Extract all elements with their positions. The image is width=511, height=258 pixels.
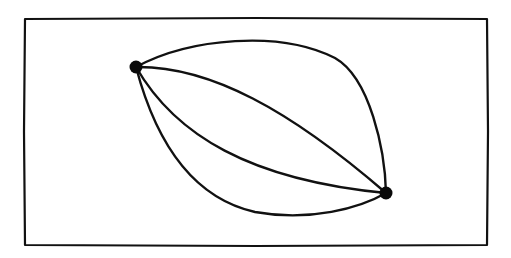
- edge-inner-top: [136, 67, 386, 193]
- edge-outer-bottom: [136, 67, 386, 215]
- node-B: [380, 187, 393, 200]
- edge-outer-top: [136, 41, 386, 193]
- edge-inner-bottom: [136, 67, 386, 193]
- graph-diagram: [0, 0, 511, 258]
- node-A: [130, 61, 143, 74]
- diagram-canvas: [0, 0, 511, 258]
